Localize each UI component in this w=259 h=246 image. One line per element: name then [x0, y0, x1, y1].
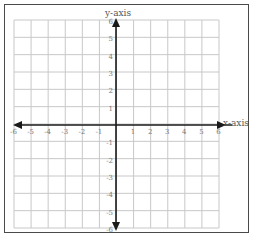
y-axis-down-arrow-icon — [112, 222, 120, 231]
y-tick-label: -6 — [106, 226, 113, 234]
y-tick-label: -4 — [106, 191, 113, 199]
coordinate-plane: -6-5-4-3-2-1123456654321-1-2-3-4-5-6 y-a… — [0, 0, 259, 246]
y-tick-label: 4 — [109, 53, 114, 61]
x-tick-label: -6 — [10, 128, 17, 136]
y-axis-label: y-axis — [104, 8, 131, 18]
axes — [13, 18, 232, 231]
x-tick-label: 1 — [131, 128, 135, 136]
x-tick-label: -5 — [27, 128, 34, 136]
y-tick-label: -2 — [106, 157, 113, 165]
y-tick-label: 1 — [109, 105, 113, 113]
x-tick-label: -4 — [44, 128, 51, 136]
x-tick-label: -1 — [96, 128, 103, 136]
x-axis-label: x-axis — [223, 118, 249, 128]
y-tick-label: 5 — [109, 35, 113, 43]
x-tick-label: 6 — [216, 128, 221, 136]
x-tick-label: 2 — [148, 128, 152, 136]
x-tick-label: 3 — [165, 128, 169, 136]
x-tick-label: -2 — [78, 128, 85, 136]
y-tick-label: 3 — [109, 70, 113, 78]
y-tick-label: 2 — [109, 87, 113, 95]
y-tick-label: -1 — [106, 139, 113, 147]
y-tick-label: 6 — [109, 18, 114, 26]
x-tick-label: -3 — [61, 128, 68, 136]
x-tick-label: 5 — [199, 128, 203, 136]
x-tick-label: 4 — [182, 128, 187, 136]
y-axis-up-arrow-icon — [112, 18, 120, 27]
y-tick-label: -3 — [106, 174, 113, 182]
y-tick-label: -5 — [106, 209, 113, 217]
